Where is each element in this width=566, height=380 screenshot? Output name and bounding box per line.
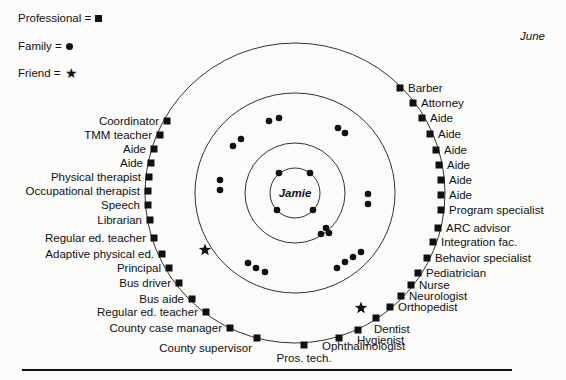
professional-node: Bus driver <box>119 277 182 289</box>
professional-node: Aide <box>123 143 158 155</box>
professional-label: Program specialist <box>449 204 544 216</box>
professional-label: Orthopedist <box>398 301 458 313</box>
professional-label: Bus aide <box>139 293 184 305</box>
family-dot <box>307 170 314 177</box>
professional-node: Coordinator <box>99 115 171 127</box>
professional-node: Barber <box>397 82 443 94</box>
professional-label: Hygienist <box>357 334 405 346</box>
professional-label: Attorney <box>421 97 464 109</box>
professional-node: Aide <box>436 159 471 171</box>
professional-label: Coordinator <box>99 115 159 127</box>
professional-label: TMM teacher <box>84 129 152 141</box>
professional-square-icon <box>147 217 154 224</box>
professional-square-icon <box>436 162 443 169</box>
professional-label: Occupational therapist <box>26 185 141 197</box>
professional-label: Barber <box>408 82 443 94</box>
professional-square-icon <box>430 239 437 246</box>
professional-label: Aide <box>444 144 467 156</box>
professional-square-icon <box>157 132 164 139</box>
professional-label: Regular ed. teacher <box>45 232 146 244</box>
professional-square-icon <box>148 160 155 167</box>
bottom-divider <box>22 369 512 371</box>
professional-node: ARC advisor <box>435 222 511 234</box>
legend-label: Family = <box>18 40 62 52</box>
professional-square-icon <box>254 335 261 342</box>
professional-square-icon <box>373 315 380 322</box>
family-dot <box>335 125 342 132</box>
professional-square-icon <box>159 251 166 258</box>
professional-label: Nurse <box>419 279 450 291</box>
professional-label: Aide <box>449 189 472 201</box>
professional-node: Aide <box>427 128 462 140</box>
professional-node: Orthopedist <box>387 301 459 313</box>
professional-square-icon <box>397 85 404 92</box>
legend-friend: Friend = ★ <box>18 67 78 79</box>
professional-label: Librarian <box>97 214 142 226</box>
professional-square-icon <box>438 207 445 214</box>
family-dot <box>217 177 224 184</box>
family-dot <box>342 130 349 137</box>
professional-label: County supervisor <box>159 342 252 354</box>
professional-label: Aide <box>430 112 453 124</box>
legend-label: Friend = <box>18 67 61 79</box>
professional-square-icon <box>419 115 426 122</box>
family-dot <box>310 207 317 214</box>
professional-square-icon <box>408 282 415 289</box>
professional-node: TMM teacher <box>84 129 163 141</box>
professional-label: Neurologist <box>409 290 468 302</box>
professional-square-icon <box>151 235 158 242</box>
professional-square-icon <box>227 325 234 332</box>
professional-square-icon <box>438 177 445 184</box>
professional-label: County case manager <box>109 322 222 334</box>
professional-node: Program specialist <box>438 204 545 216</box>
professional-square-icon <box>415 270 422 277</box>
family-dot <box>350 254 357 261</box>
family-dot <box>238 136 245 143</box>
family-dot <box>274 207 281 214</box>
professional-square-icon <box>151 146 158 153</box>
professional-square-icon <box>145 202 152 209</box>
professional-square-icon <box>164 118 171 125</box>
professional-node: Aide <box>438 189 473 201</box>
family-dot <box>217 187 224 194</box>
professional-label: Principal <box>117 262 161 274</box>
professional-label: Regular ed. teacher <box>97 306 198 318</box>
professional-label: Aide <box>438 128 461 140</box>
professional-square-icon <box>301 342 308 349</box>
family-dot <box>318 231 325 238</box>
professional-square-icon <box>145 188 152 195</box>
professional-square-icon <box>427 131 434 138</box>
legend-professional: Professional = <box>18 12 102 24</box>
family-dot <box>334 265 341 272</box>
professional-label: Behavior specialist <box>435 252 532 264</box>
professional-node: Principal <box>117 262 173 274</box>
family-dot <box>262 269 269 276</box>
professional-node: Regular ed. teacher <box>97 306 210 318</box>
professional-node: County supervisor <box>159 335 260 355</box>
family-dot <box>276 115 283 122</box>
professional-square-icon <box>433 147 440 154</box>
professional-node: Librarian <box>97 214 153 226</box>
professional-node: County case manager <box>109 322 233 334</box>
professional-node: Pediatrician <box>415 267 487 279</box>
family-dot <box>365 191 372 198</box>
professional-node: Bus aide <box>139 293 195 305</box>
professional-label: Bus driver <box>119 277 171 289</box>
professional-node: Adaptive physical ed. <box>45 248 165 260</box>
professional-label: Dentist <box>374 323 411 335</box>
professional-node: Speech <box>101 199 152 211</box>
professional-square-icon <box>410 100 417 107</box>
chart-title: June <box>520 30 545 42</box>
family-dot <box>245 260 252 267</box>
family-dot <box>253 265 260 272</box>
professional-square-icon <box>176 280 183 287</box>
family-dot <box>266 118 273 125</box>
professional-square-icon <box>166 265 173 272</box>
professional-node: Integration fac. <box>430 236 518 248</box>
professional-node: Regular ed. teacher <box>45 232 158 244</box>
professional-node: Behavior specialist <box>424 252 532 264</box>
professional-square-icon <box>146 174 153 181</box>
professional-square-icon <box>438 192 445 199</box>
professional-node: Physical therapist <box>51 171 153 183</box>
professional-square-icon <box>189 296 196 303</box>
